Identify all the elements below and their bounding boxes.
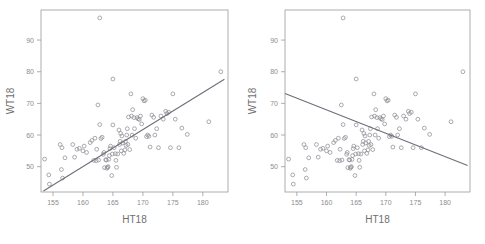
data-point — [307, 156, 311, 160]
data-point — [399, 146, 403, 150]
data-point — [341, 16, 345, 20]
x-axis-tick-label: 165 — [350, 199, 362, 206]
x-axis-tick-label: 165 — [107, 199, 119, 206]
data-point — [461, 70, 465, 74]
y-axis-tick-label: 90 — [270, 37, 278, 44]
data-point — [98, 123, 102, 127]
data-point — [404, 117, 408, 121]
data-point — [303, 168, 307, 172]
x-axis-tick-label: 170 — [380, 199, 392, 206]
data-point — [47, 182, 51, 186]
data-point — [304, 176, 308, 180]
data-point — [287, 157, 291, 161]
data-point — [98, 16, 102, 20]
data-point — [357, 158, 361, 162]
x-axis-title: HT18 — [122, 214, 147, 225]
scatterplot-figure: 1551601651701751805060708090HT18WT18 155… — [0, 0, 485, 244]
data-point — [355, 146, 359, 150]
data-point — [153, 133, 157, 137]
data-point — [422, 126, 426, 130]
plot-frame — [41, 10, 228, 192]
data-point — [169, 146, 173, 150]
data-point — [374, 108, 378, 112]
x-axis-tick-label: 155 — [47, 199, 59, 206]
data-point — [326, 144, 330, 148]
data-point — [319, 147, 323, 151]
data-point — [315, 143, 319, 147]
y-axis-title: WT18 — [247, 87, 258, 114]
data-point — [391, 145, 395, 149]
data-point — [304, 146, 308, 150]
data-point — [155, 127, 159, 131]
y-axis-tick-label: 80 — [26, 68, 34, 75]
data-point — [341, 123, 345, 127]
data-point — [93, 136, 97, 140]
data-point — [336, 136, 340, 140]
data-point — [134, 136, 138, 140]
data-point — [71, 143, 75, 147]
y-axis-tick-label: 50 — [26, 163, 34, 170]
y-axis-tick-label: 60 — [270, 132, 278, 139]
data-point — [416, 117, 420, 121]
data-point — [428, 132, 432, 136]
data-point — [398, 127, 402, 131]
data-point — [95, 147, 99, 151]
data-point — [85, 151, 89, 155]
y-axis-title: WT18 — [5, 87, 16, 114]
data-point — [449, 120, 453, 124]
x-axis-tick-label: 175 — [167, 199, 179, 206]
data-point — [63, 156, 67, 160]
y-axis-tick-label: 60 — [26, 132, 34, 139]
x-axis-tick-label: 160 — [321, 199, 333, 206]
data-point — [131, 108, 135, 112]
data-point — [180, 126, 184, 130]
y-axis-tick-label: 70 — [270, 100, 278, 107]
data-point — [111, 123, 115, 127]
data-point — [125, 133, 129, 137]
figure-caption — [0, 236, 485, 244]
data-point — [353, 174, 357, 178]
data-point — [125, 127, 129, 131]
data-point — [354, 77, 358, 81]
data-points — [43, 16, 223, 186]
x-axis-tick-label: 180 — [439, 199, 451, 206]
data-point — [171, 92, 175, 96]
data-point — [372, 92, 376, 96]
data-point — [316, 155, 320, 159]
data-point — [177, 146, 181, 150]
data-points — [287, 16, 465, 186]
data-point — [291, 182, 295, 186]
x-axis-tick-label: 170 — [137, 199, 149, 206]
y-axis-tick-label: 70 — [26, 100, 34, 107]
data-point — [129, 92, 133, 96]
data-point — [366, 148, 370, 152]
data-point — [321, 146, 325, 150]
data-point — [368, 133, 372, 137]
data-point — [359, 152, 363, 156]
data-point — [59, 168, 63, 172]
data-point — [47, 173, 51, 177]
x-axis-tick-label: 175 — [410, 199, 422, 206]
data-point — [115, 165, 119, 169]
data-point — [207, 120, 211, 124]
data-point — [396, 133, 400, 137]
data-point — [110, 174, 114, 178]
x-axis-tick-label: 155 — [291, 199, 303, 206]
data-point — [185, 132, 189, 136]
y-axis-tick-label: 80 — [270, 68, 278, 75]
data-point — [219, 70, 223, 74]
data-point — [377, 136, 381, 140]
data-point — [291, 173, 295, 177]
regression-line — [285, 94, 468, 166]
data-point — [82, 144, 86, 148]
data-point — [123, 148, 127, 152]
data-point — [414, 92, 418, 96]
data-point — [383, 122, 387, 126]
regression-line — [43, 79, 224, 191]
x-axis-tick-label: 160 — [77, 199, 89, 206]
y-axis-tick-label: 90 — [26, 37, 34, 44]
data-point — [371, 148, 375, 152]
data-point — [111, 77, 115, 81]
data-point — [97, 158, 101, 162]
data-point — [133, 127, 137, 131]
